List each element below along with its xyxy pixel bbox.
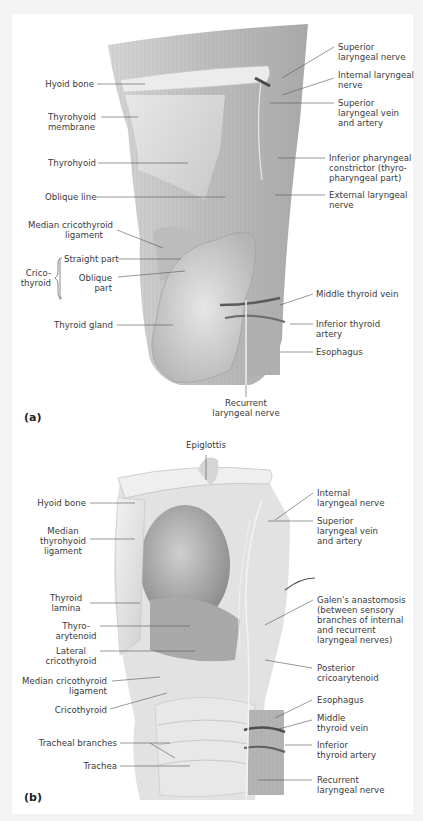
label-posterior-cricoarytenoid-line1: Posterior [317,663,355,673]
label-inferior-thyroid-artery-b-line2: thyroid artery [317,750,376,760]
label-thyroid-lamina-line1: Thyroid [46,593,86,603]
label-median-thyrohyoid-line3: ligament [38,546,88,556]
label-trachea: Trachea [60,761,117,771]
label-median-cricothyroid-line2: ligament [20,230,103,240]
label-posterior-cricoarytenoid-line2: cricoarytenoid [317,673,379,683]
label-galen-line2: (between sensory [317,605,394,615]
label-median-cricothyroid-b-line2: ligament [14,686,107,696]
label-superior-laryngeal-vein-b-line2: laryngeal vein [317,526,378,536]
label-recurrent-b-line2: laryngeal nerve [317,785,385,795]
label-galen-line4: and recurrent [317,625,376,635]
label-internal-laryngeal-b-line2: laryngeal nerve [317,498,385,508]
crico-bracket [55,258,62,298]
label-superior-laryngeal-nerve-line2: laryngeal nerve [338,52,406,62]
label-thyroid-gland: Thyroid gland [30,320,113,330]
label-superior-laryngeal-vein-line2: laryngeal vein [338,108,399,118]
label-internal-laryngeal-b-line1: Internal [317,488,350,498]
panel-a-illustration [108,24,308,385]
label-internal-laryngeal-nerve-line2: nerve [338,80,363,90]
label-inferior-thyroid-artery-line2: artery [316,329,342,339]
label-epiglottis: Epiglottis [180,440,232,450]
label-hyoid-bone: Hyoid bone [30,79,94,89]
label-external-laryngeal-line2: nerve [329,200,354,210]
label-cricothyroid: Cricothyroid [40,705,107,715]
label-oblique-part-line1: Oblique [64,273,112,283]
label-thyroid-lamina-line2: lamina [46,603,86,613]
label-superior-laryngeal-vein-b-line1: Superior [317,516,353,526]
label-galen-line3: branches of internal [317,615,403,625]
label-crico-line1: Crico- [15,268,51,278]
label-median-cricothyroid-b-line1: Median cricothyroid [14,676,107,686]
label-esophagus: Esophagus [316,347,363,357]
label-superior-laryngeal-vein-b-line3: and artery [317,536,362,546]
label-inferior-pharyngeal-line1: Inferior pharyngeal [329,153,411,163]
label-straight-part: Straight part [64,254,119,264]
label-crico-line2: thyroid [15,278,51,288]
label-inferior-thyroid-artery-line1: Inferior thyroid [316,319,380,329]
label-recurrent-line2: laryngeal nerve [206,408,286,418]
label-lateral-cricothyroid-line2: cricothyroid [44,656,98,666]
label-oblique-part-line2: part [64,283,112,293]
label-thyroarytenoid-line1: Thyro- [54,621,98,631]
panel-tag-b: (b) [24,791,42,804]
label-median-thyrohyoid-line2: thyrohyoid [38,536,88,546]
label-thyrohyoid-membrane-line1: Thyrohyoid [48,112,96,122]
label-inferior-pharyngeal-line2: constrictor (thyro- [329,163,407,173]
label-recurrent-b-line1: Recurrent [317,775,359,785]
label-esophagus-b: Esophagus [317,695,364,705]
label-superior-laryngeal-vein-line3: and artery [338,118,383,128]
label-internal-laryngeal-nerve-line1: Internal laryngeal [338,70,414,80]
label-inferior-thyroid-artery-b-line1: Inferior [317,740,348,750]
panel-b-illustration [114,458,315,800]
label-thyrohyoid-membrane-line2: membrane [48,122,95,132]
label-recurrent-line1: Recurrent [206,398,286,408]
label-hyoid-bone-b: Hyoid bone [20,498,86,508]
label-superior-laryngeal-nerve-line1: Superior [338,42,374,52]
label-middle-thyroid-vein-b-line1: Middle [317,713,345,723]
label-middle-thyroid-vein: Middle thyroid vein [316,289,398,299]
label-middle-thyroid-vein-b-line2: thyroid vein [317,723,368,733]
label-galen-line1: Galen's anastomosis [317,595,406,605]
label-inferior-pharyngeal-line3: pharyngeal part) [329,173,401,183]
label-median-cricothyroid-line1: Median cricothyroid [20,220,113,230]
label-superior-laryngeal-vein-line1: Superior [338,98,374,108]
label-tracheal-branches: Tracheal branches [20,738,117,748]
label-thyroarytenoid-line2: arytenoid [54,631,98,641]
label-median-thyrohyoid-line1: Median [38,526,88,536]
label-oblique-line: Oblique line [45,192,96,202]
label-external-laryngeal-line1: External laryngeal [329,190,408,200]
label-galen-line5: laryngeal nerves) [317,635,392,645]
panel-tag-a: (a) [24,411,41,424]
label-lateral-cricothyroid-line1: Lateral [44,646,98,656]
label-thyrohyoid: Thyrohyoid [48,158,96,168]
